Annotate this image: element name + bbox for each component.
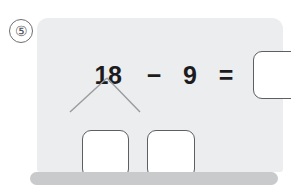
answer-input-box-part-left[interactable] — [82, 130, 129, 178]
equals-sign-icon: = — [208, 63, 244, 88]
problem-card: 18 − 9 = — [37, 18, 283, 172]
equation-operand-right: 9 — [172, 63, 208, 88]
worksheet-problem-root: ⑤ 18 − 9 = — [0, 0, 291, 195]
equation-row: 18 − 9 = — [80, 58, 246, 92]
equation-operand-left: 18 — [80, 63, 136, 88]
card-base-bar — [30, 172, 278, 185]
minus-operator-icon: − — [136, 63, 172, 88]
problem-number-badge: ⑤ — [9, 19, 33, 43]
answer-value-part-left — [83, 131, 128, 177]
answer-input-box-part-right[interactable] — [147, 130, 195, 178]
answer-input-box-sum[interactable] — [253, 51, 291, 99]
answer-value-part-right — [148, 131, 194, 177]
answer-value-sum — [254, 52, 291, 98]
